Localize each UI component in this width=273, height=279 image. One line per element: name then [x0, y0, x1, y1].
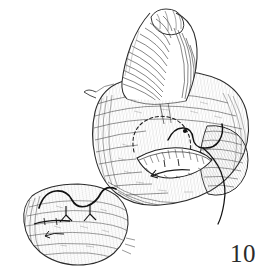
figure-page: 10 [0, 0, 273, 279]
suture-knot [183, 129, 187, 133]
figure-number-label: 10 [226, 240, 260, 268]
figure-illustration [0, 0, 273, 279]
